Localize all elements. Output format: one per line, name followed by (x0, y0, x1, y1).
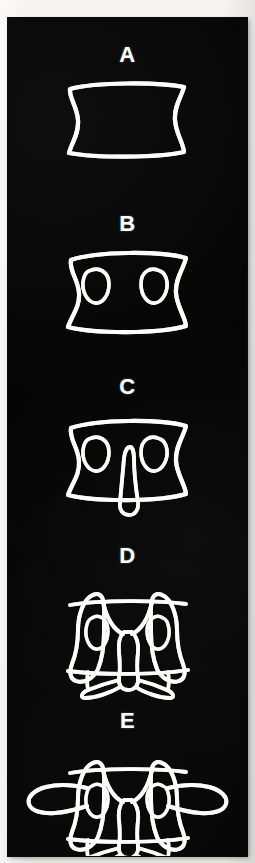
stage-a-label: A (8, 44, 247, 66)
spinous-process (120, 447, 138, 515)
right-inferior-facet-edge (168, 840, 169, 856)
left-pedicle-oval (83, 269, 109, 303)
stage-d-drawing (8, 574, 247, 700)
right-inferior-facet-edge (168, 672, 169, 690)
stage-c-label: C (8, 376, 247, 398)
left-inferior-facet-edge (87, 840, 88, 856)
stage-e-label: E (8, 710, 247, 732)
left-pedicle-oval (83, 437, 109, 471)
figure-panel: A B C D (8, 18, 247, 856)
stage-c-drawing (8, 414, 247, 524)
stage-b-label: B (8, 213, 247, 235)
spinous-process (119, 632, 138, 690)
right-pedicle-oval (141, 437, 167, 471)
stage-a-drawing (8, 76, 247, 168)
right-pedicle-oval (141, 269, 167, 303)
vertebral-body-outline (69, 83, 184, 156)
spinous-process (119, 800, 138, 856)
stage-e-drawing (8, 740, 247, 856)
stage-d-label: D (8, 545, 247, 567)
left-inferior-facet-edge (87, 672, 88, 690)
stage-b-drawing (8, 246, 247, 342)
